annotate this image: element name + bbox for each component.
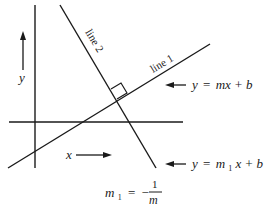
line-1-equation-arrow-icon xyxy=(165,82,186,88)
fraction-numerator: 1 xyxy=(152,178,158,190)
line-1-label: line 1 xyxy=(148,52,175,75)
line-1 xyxy=(8,44,210,168)
line-2-equation: y = m 1 x + b 1 xyxy=(190,156,266,174)
y-direction-arrow-icon xyxy=(20,31,26,70)
svg-text:m 1 = −: m 1 = − xyxy=(105,185,149,203)
line-2-equation-arrow-icon xyxy=(165,161,186,167)
x-direction-arrow-icon xyxy=(76,152,112,158)
line-1-equation: y = mx + b xyxy=(190,77,253,92)
y-axis-label: y xyxy=(17,70,25,85)
perpendicular-lines-diagram: line 2 line 1 y x y = mx + b y = m 1 x +… xyxy=(0,0,266,210)
fraction-denominator: m xyxy=(149,193,158,207)
slope-relation: m 1 = − 1 m xyxy=(105,178,162,207)
x-axis-label: x xyxy=(65,147,72,162)
